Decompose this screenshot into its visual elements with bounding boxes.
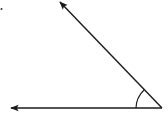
angle-diagram <box>0 0 168 115</box>
slanted-ray <box>60 2 162 108</box>
angle-arc <box>136 90 144 108</box>
marker-dot <box>1 8 3 10</box>
